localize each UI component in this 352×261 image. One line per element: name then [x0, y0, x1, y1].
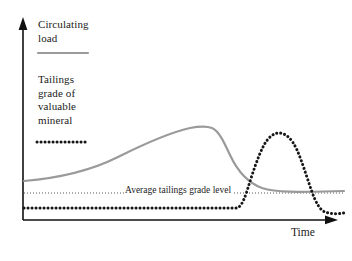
- average-tailings-grade-annotation: Average tailings grade level: [124, 185, 232, 195]
- legend-label-tailings-grade: Tailings grade of valuable mineral: [38, 73, 76, 127]
- x-axis: [23, 215, 338, 224]
- y-axis: [19, 17, 28, 220]
- chart-figure: Circulating load Tailings grade of valua…: [0, 0, 352, 261]
- x-axis-title: Time: [291, 226, 315, 238]
- legend-label-circulating-load: Circulating load: [38, 18, 89, 45]
- y-axis-arrowhead: [19, 17, 28, 30]
- x-axis-arrowhead: [325, 215, 338, 224]
- circulating-load-curve: [24, 127, 344, 192]
